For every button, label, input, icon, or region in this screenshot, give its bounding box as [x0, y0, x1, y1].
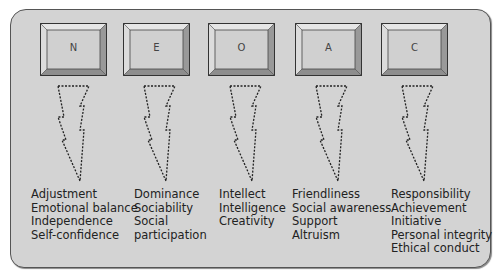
trait: Achievement	[391, 202, 492, 216]
trait: Social awareness	[292, 202, 391, 216]
traits-a: Friendliness Social awareness Support Al…	[292, 188, 391, 242]
trait: Sociability	[134, 202, 207, 216]
key-c: C	[381, 23, 448, 76]
trait: Creativity	[219, 215, 286, 229]
trait: Personal integrity	[391, 229, 492, 243]
trait: Responsibility	[391, 188, 492, 202]
key-label: E	[123, 42, 190, 53]
trait: Adjustment	[31, 188, 138, 202]
key-n: N	[40, 23, 107, 76]
lightning-bolt-icon	[228, 84, 268, 184]
traits-n: Adjustment Emotional balance Independenc…	[31, 188, 138, 242]
lightning-bolt-icon	[400, 84, 440, 184]
trait: Independence	[31, 215, 138, 229]
traits-o: Intellect Intelligence Creativity	[219, 188, 286, 229]
key-a: A	[295, 23, 362, 76]
trait: Support	[292, 215, 391, 229]
trait: Altruism	[292, 229, 391, 243]
trait: Ethical conduct	[391, 242, 492, 256]
traits-c: Responsibility Achievement Initiative Pe…	[391, 188, 492, 256]
key-label: N	[40, 42, 107, 53]
trait: participation	[134, 229, 207, 243]
key-label: A	[295, 42, 362, 53]
trait: Friendliness	[292, 188, 391, 202]
lightning-bolt-icon	[314, 84, 354, 184]
key-e: E	[123, 23, 190, 76]
key-label: C	[381, 42, 448, 53]
trait: Social	[134, 215, 207, 229]
trait: Dominance	[134, 188, 207, 202]
key-label: O	[208, 42, 275, 53]
trait: Intelligence	[219, 202, 286, 216]
trait: Emotional balance	[31, 202, 138, 216]
key-o: O	[208, 23, 275, 76]
traits-e: Dominance Sociability Social participati…	[134, 188, 207, 242]
trait: Initiative	[391, 215, 492, 229]
trait: Intellect	[219, 188, 286, 202]
lightning-bolt-icon	[56, 84, 96, 184]
trait: Self-confidence	[31, 229, 138, 243]
lightning-bolt-icon	[142, 84, 182, 184]
